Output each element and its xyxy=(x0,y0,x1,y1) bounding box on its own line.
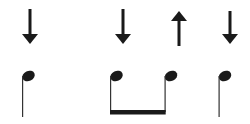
beam xyxy=(110,110,166,115)
beamed-eighth-notes xyxy=(108,69,179,115)
quarter-note-1 xyxy=(20,69,36,117)
quarter-note-4 xyxy=(217,69,233,117)
arrow-up-3 xyxy=(171,11,187,46)
arrow-down-2 xyxy=(115,9,131,44)
arrow-down-1 xyxy=(22,9,38,44)
strum-pattern-diagram xyxy=(0,0,250,124)
arrow-down-4 xyxy=(222,11,238,44)
